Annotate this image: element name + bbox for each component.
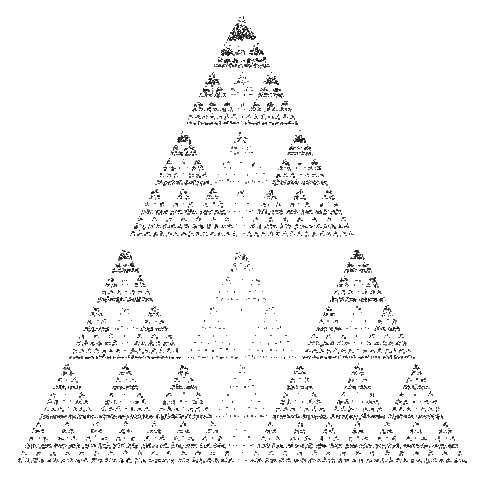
- sierpinski-like-fractal-canvas: [0, 0, 481, 503]
